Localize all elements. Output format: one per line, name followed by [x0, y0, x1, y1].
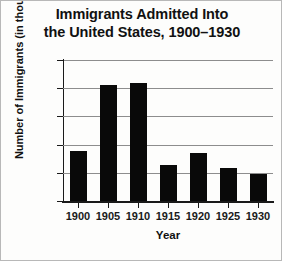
x-tick-mark [198, 201, 199, 208]
x-tick-label: 1930 [238, 211, 278, 222]
y-axis-title: Number of Immigrants (in thousands) [13, 0, 29, 161]
bar [130, 83, 147, 201]
chart-figure: Immigrants Admitted Into the United Stat… [0, 0, 282, 261]
bar [190, 153, 207, 202]
bar [100, 85, 117, 201]
x-tick-mark [258, 201, 259, 208]
y-tick-mark [57, 201, 63, 202]
plot-area: 02505007501,0001,250 [63, 60, 273, 201]
x-tick-mark [108, 201, 109, 208]
x-tick-mark [168, 201, 169, 208]
y-tick-mark [57, 60, 63, 61]
chart-title-line-1: Immigrants Admitted Into [1, 5, 282, 23]
y-tick-mark [57, 116, 63, 117]
y-tick-mark [57, 173, 63, 174]
x-tick-mark [138, 201, 139, 208]
bar [70, 151, 87, 201]
bar [160, 165, 177, 201]
bar [250, 174, 267, 201]
y-tick-mark [57, 88, 63, 89]
gridline [63, 145, 273, 146]
x-axis-title: Year [63, 229, 273, 241]
x-tick-mark [228, 201, 229, 208]
gridline [63, 116, 273, 117]
chart-title-line-2: the United States, 1900–1930 [1, 23, 282, 41]
gridline [63, 88, 273, 89]
x-tick-mark [78, 201, 79, 208]
bar [220, 168, 237, 201]
y-tick-mark [57, 145, 63, 146]
chart-title: Immigrants Admitted Into the United Stat… [1, 5, 282, 41]
